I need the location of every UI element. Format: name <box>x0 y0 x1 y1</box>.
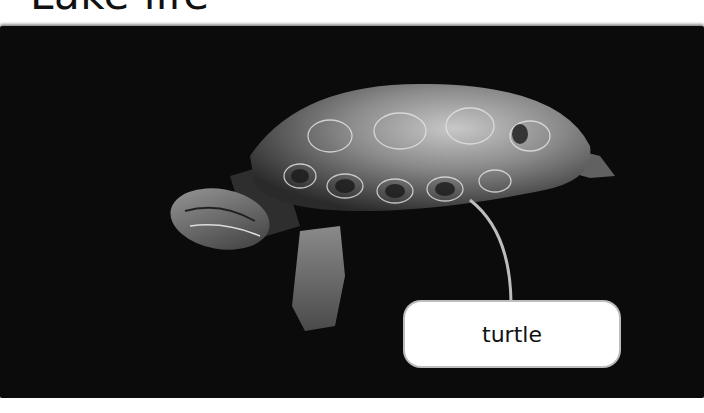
header: Lake life <box>0 0 704 26</box>
footer <box>0 398 704 413</box>
annotation-text: turtle <box>482 322 542 347</box>
annotation-label: turtle <box>405 302 619 366</box>
page-title: Lake life <box>30 0 210 19</box>
pointer-line <box>470 200 511 302</box>
